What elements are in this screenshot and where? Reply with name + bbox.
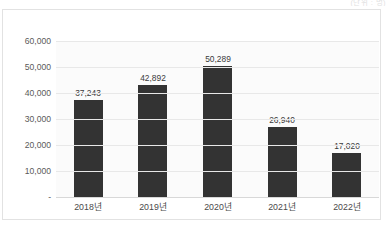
y-axis-ticks: 60,00050,00040,00030,00020,00010,000- [3, 41, 379, 197]
chart-unit-annotation: (단위 : 명) [300, 0, 386, 6]
y-axis-tick-label: 40,000 [3, 88, 51, 98]
x-axis-category-label: 2020년 [190, 200, 246, 213]
chart-screenshot: (단위 : 명) 37,24342,89250,28926,94017,020 … [0, 0, 390, 229]
x-axis-category-label: 2019년 [125, 200, 181, 213]
x-axis-categories: 2018년2019년2020년2021년2022년 [56, 200, 379, 216]
x-axis-category-label: 2021년 [254, 200, 310, 213]
y-axis-tick-label: 50,000 [3, 62, 51, 72]
y-axis-tick-label: 60,000 [3, 36, 51, 46]
y-axis-tick-label: - [3, 192, 51, 202]
y-axis-tick-label: 10,000 [3, 166, 51, 176]
y-axis-tick-label: 20,000 [3, 140, 51, 150]
y-axis-tick-label: 30,000 [3, 114, 51, 124]
gridline [56, 197, 379, 198]
x-axis-category-label: 2018년 [60, 200, 116, 213]
chart-frame: 37,24342,89250,28926,94017,020 60,00050,… [2, 9, 381, 220]
x-axis-category-label: 2022년 [319, 200, 375, 213]
